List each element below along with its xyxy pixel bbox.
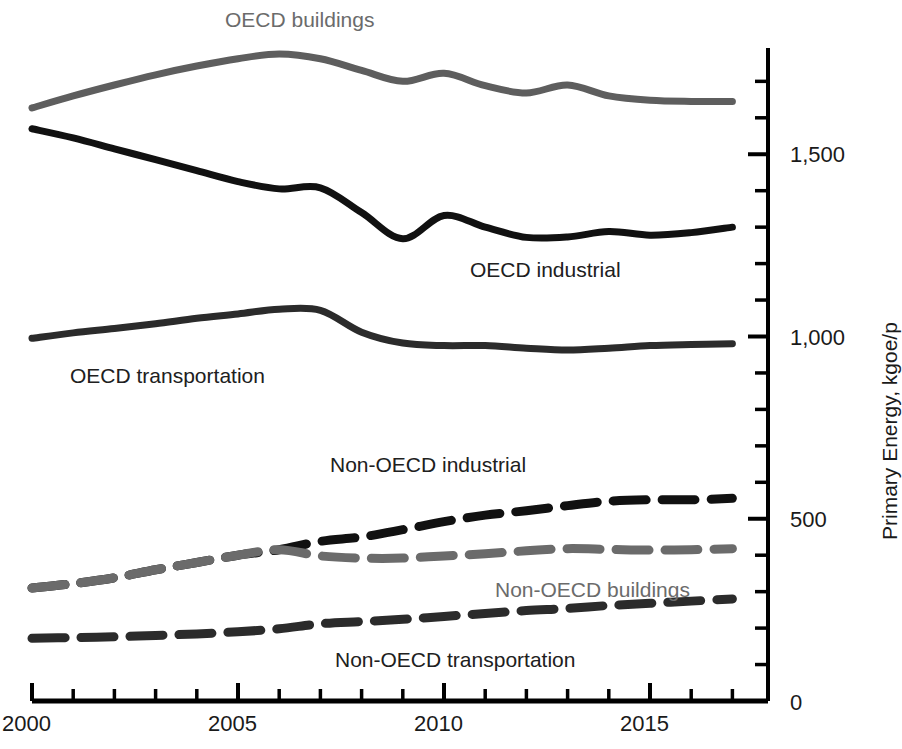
series-label-oecd-industrial: OECD industrial (470, 258, 621, 282)
series-label-non-oecd-transportation: Non-OECD transportation (335, 648, 575, 672)
x-tick-label-2010: 2010 (414, 711, 463, 737)
x-tick-label-2000: 2000 (2, 711, 51, 737)
series-label-oecd-buildings: OECD buildings (225, 8, 374, 32)
y-tick-label-1000: 1,000 (790, 325, 845, 351)
y-tick-label-1500: 1,500 (790, 142, 845, 168)
series-line-non-oecd-transportation (32, 599, 732, 638)
series-line-oecd-buildings (32, 54, 732, 108)
series-line-oecd-transportation (32, 308, 732, 350)
x-tick-label-2005: 2005 (208, 711, 257, 737)
y-tick-label-0: 0 (790, 690, 802, 716)
series-label-non-oecd-industrial: Non-OECD industrial (330, 453, 526, 477)
series-line-oecd-industrial (32, 129, 732, 239)
y-axis-title: Primary Energy, kgoe/p (878, 322, 902, 540)
series-label-non-oecd-buildings: Non-OECD buildings (495, 578, 690, 602)
series-lines (32, 54, 732, 638)
y-tick-label-500: 500 (790, 507, 827, 533)
series-label-oecd-transportation: OECD transportation (70, 364, 265, 388)
x-tick-label-2015: 2015 (620, 711, 669, 737)
